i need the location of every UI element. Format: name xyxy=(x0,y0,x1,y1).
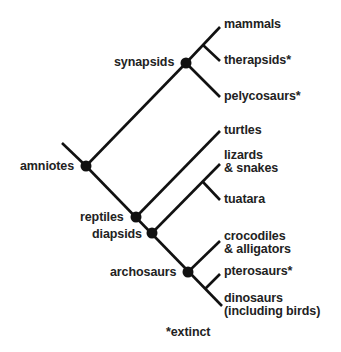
taxon-lizards-line2: & snakes xyxy=(224,162,278,175)
edge-amniotes-synapsids xyxy=(86,63,186,166)
label-reptiles: reptiles xyxy=(80,211,124,224)
node-amniotes xyxy=(81,161,92,172)
taxon-dinosaurs-line2: (including birds) xyxy=(224,305,320,318)
edge-reptiles-turtles xyxy=(136,131,220,217)
edge-diapsids-lizards xyxy=(152,164,220,233)
node-synapsids xyxy=(181,58,192,69)
label-diapsids: diapsids xyxy=(92,228,142,241)
taxon-tuatara: tuatara xyxy=(224,193,265,206)
label-archosaurs: archosaurs xyxy=(110,266,176,279)
label-amniotes: amniotes xyxy=(20,160,74,173)
node-archosaurs xyxy=(183,267,194,278)
taxon-mammals: mammals xyxy=(224,18,281,31)
taxon-therapsids: therapsids* xyxy=(224,54,291,67)
node-reptiles xyxy=(131,212,142,223)
edge-synapsids-pelycosaurs xyxy=(186,63,220,97)
node-diapsids xyxy=(147,228,158,239)
footnote-extinct: *extinct xyxy=(166,326,210,339)
taxon-crocodiles-line2: & alligators xyxy=(224,243,291,256)
edge-archosaurs-crocodiles xyxy=(188,241,220,272)
edge-therapsids xyxy=(203,45,220,61)
edge-tuatara xyxy=(203,182,220,200)
taxon-turtles: turtles xyxy=(224,124,262,137)
edge-pterosaurs xyxy=(205,274,220,289)
taxon-crocodiles-alligators: crocodiles & alligators xyxy=(224,230,291,256)
taxon-lizards-snakes: lizards & snakes xyxy=(224,149,278,175)
label-synapsids: synapsids xyxy=(114,56,174,69)
taxon-pelycosaurs: pelycosaurs* xyxy=(224,90,301,103)
taxon-pterosaurs: pterosaurs* xyxy=(224,265,292,278)
taxon-dinosaurs: dinosaurs (including birds) xyxy=(224,292,320,318)
